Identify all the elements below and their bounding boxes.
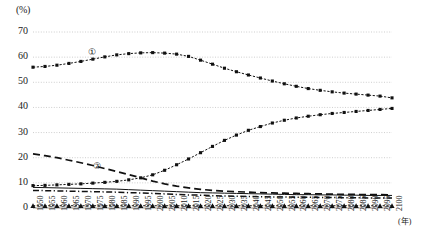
x-tick-label: 2095 — [383, 196, 392, 211]
x-tick-label: 2015 — [192, 196, 201, 211]
x-tick-label: 2040 — [252, 196, 261, 211]
x-tick-label: 2035 — [240, 196, 249, 211]
series-① — [31, 51, 393, 99]
y-tick-label: 40 — [4, 100, 28, 111]
y-tick-label: 20 — [4, 151, 28, 162]
x-tick-label: 2010 — [180, 196, 189, 211]
x-axis-unit-label: (年) — [398, 215, 411, 226]
series-annotation: ① — [88, 47, 96, 57]
x-tick-label: 1990 — [132, 196, 141, 211]
line-chart: (%) 010203040506070 19501955196019651970… — [0, 0, 426, 248]
x-tick-label: 2020 — [204, 196, 213, 211]
y-tick-label: 50 — [4, 75, 28, 86]
x-tick-label: 2070 — [323, 196, 332, 211]
y-tick-label: 30 — [4, 126, 28, 137]
x-tick-label: 1995 — [144, 196, 153, 211]
y-tick-label: 0 — [4, 201, 28, 212]
x-tick-label: 1965 — [72, 196, 81, 211]
x-tick-label: 2075 — [335, 196, 344, 211]
x-tick-label: 1970 — [84, 196, 93, 211]
x-tick-label: 2055 — [288, 196, 297, 211]
x-tick-label: 1975 — [96, 196, 105, 211]
x-tick-label: 2005 — [168, 196, 177, 211]
x-tick-label: 2045 — [264, 196, 273, 211]
x-tick-label: 2100 — [395, 196, 404, 211]
series-annotation: ② — [93, 161, 101, 171]
x-tick-label: 2000 — [156, 196, 165, 211]
series-rising-series — [31, 107, 393, 187]
x-tick-label: 2080 — [347, 196, 356, 211]
y-tick-label: 60 — [4, 50, 28, 61]
x-tick-label: 2065 — [311, 196, 320, 211]
x-tick-label: 2025 — [216, 196, 225, 211]
x-tick-label: 1955 — [48, 196, 57, 211]
x-tick-label: 1985 — [120, 196, 129, 211]
y-tick-label: 10 — [4, 176, 28, 187]
y-tick-label: 70 — [4, 25, 28, 36]
x-tick-label: 2050 — [276, 196, 285, 211]
x-tick-label: 1960 — [60, 196, 69, 211]
x-tick-label: 2085 — [359, 196, 368, 211]
x-tick-label: 2060 — [299, 196, 308, 211]
x-tick-label: 2090 — [371, 196, 380, 211]
x-tick-label: 1950 — [36, 196, 45, 211]
x-tick-label: 2030 — [228, 196, 237, 211]
x-tick-label: 1980 — [108, 196, 117, 211]
